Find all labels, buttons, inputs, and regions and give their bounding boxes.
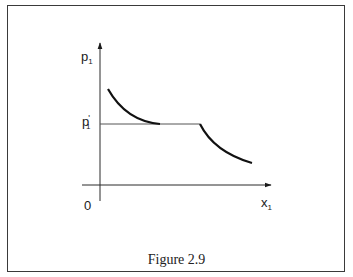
y-axis-label: p1 bbox=[81, 50, 93, 66]
price-level-label-sub: 1 bbox=[86, 122, 90, 131]
diagram-plot bbox=[0, 0, 353, 277]
right-demand-curve bbox=[200, 124, 252, 163]
figure-caption: Figure 2.9 bbox=[0, 252, 353, 268]
origin-label: 0 bbox=[84, 199, 91, 212]
x-axis-label: x1 bbox=[261, 196, 272, 212]
left-demand-curve bbox=[108, 89, 160, 124]
x-axis-label-sub: 1 bbox=[268, 203, 272, 212]
y-axis-label-sub: 1 bbox=[88, 57, 92, 66]
price-level-label: p'1 bbox=[82, 114, 90, 131]
